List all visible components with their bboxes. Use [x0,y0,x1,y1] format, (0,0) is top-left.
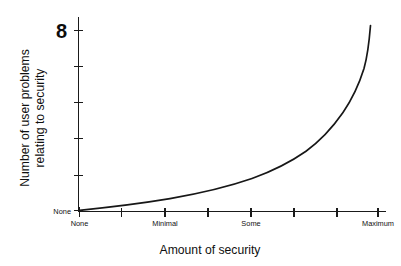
y-axis-title-line1: Number of user problems [18,49,32,187]
x-tick-label-minimal: Minimal [152,219,178,228]
x-axis-title: Amount of security [160,243,262,257]
y-axis-title-line2: relating to security [33,68,47,168]
y-axis-min-label: None [53,207,71,216]
chart-container: 8 None None Minimal Some Maximum Amount … [0,0,401,266]
x-tick-label-none: None [71,219,89,228]
x-tick-label-maximum: Maximum [362,219,394,228]
chart-plot-area: 8 None None Minimal Some Maximum Amount … [0,0,401,266]
x-tick-label-some: Some [241,219,260,228]
y-axis-max-label: 8 [56,20,67,42]
